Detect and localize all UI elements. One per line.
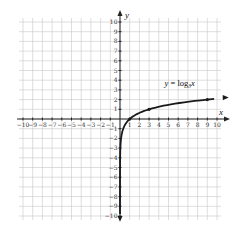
curve-arrow-down-icon [118, 216, 123, 222]
y-axis-label: y [124, 10, 129, 20]
y-tick-label: 4 [114, 76, 118, 83]
y-tick-label: 5 [114, 67, 118, 74]
x-tick-label: 3 [147, 121, 151, 128]
y-tick-label: 7 [114, 47, 118, 54]
x-tick-label: 1 [128, 121, 132, 128]
x-axis-label: x [218, 107, 223, 117]
curve-point [206, 98, 209, 101]
log-function-chart: −10−9−8−7−6−5−4−3−2−112345678910−10−9−8−… [0, 0, 239, 238]
curve-point [148, 108, 151, 111]
x-tick-label: −5 [67, 121, 76, 128]
curve-label: y = log3x [164, 78, 195, 89]
x-tick-label: −8 [38, 121, 47, 128]
x-axis-arrow-icon [224, 117, 230, 122]
x-tick-label: 6 [176, 121, 180, 128]
y-tick-label: 8 [114, 37, 118, 44]
x-tick-label: 4 [157, 121, 161, 128]
y-tick-label: 1 [114, 105, 118, 112]
y-tick-label: −5 [109, 164, 118, 171]
x-tick-label: −2 [96, 121, 105, 128]
y-tick-label: 6 [114, 57, 118, 64]
curve-arrow-right-icon [223, 95, 229, 100]
y-tick-label: 10 [110, 18, 118, 25]
x-tick-label: 9 [205, 121, 209, 128]
y-tick-label: −4 [109, 154, 118, 161]
log-curve [118, 95, 229, 222]
y-tick-label: −8 [109, 193, 118, 200]
x-tick-label: 5 [167, 121, 171, 128]
x-tick-label: −3 [86, 121, 95, 128]
y-tick-label: −1 [109, 125, 118, 132]
y-tick-label: −2 [109, 134, 118, 141]
x-tick-label: 10 [213, 121, 221, 128]
x-tick-label: −4 [77, 121, 86, 128]
x-tick-label: 8 [196, 121, 200, 128]
x-tick-label: −7 [48, 121, 57, 128]
y-tick-label: −6 [109, 173, 118, 180]
y-tick-label: −10 [105, 212, 118, 219]
y-tick-label: 9 [114, 28, 118, 35]
y-tick-label: 3 [114, 86, 118, 93]
y-tick-label: −7 [109, 183, 118, 190]
curve-point [128, 117, 131, 120]
x-tick-label: −9 [28, 121, 37, 128]
x-tick-label: 2 [137, 121, 141, 128]
x-tick-label: −6 [57, 121, 66, 128]
x-tick-label: 7 [186, 121, 190, 128]
y-tick-label: −9 [109, 202, 118, 209]
y-tick-label: −3 [109, 144, 118, 151]
y-tick-label: 2 [114, 96, 118, 103]
y-axis-arrow-icon [118, 10, 123, 16]
